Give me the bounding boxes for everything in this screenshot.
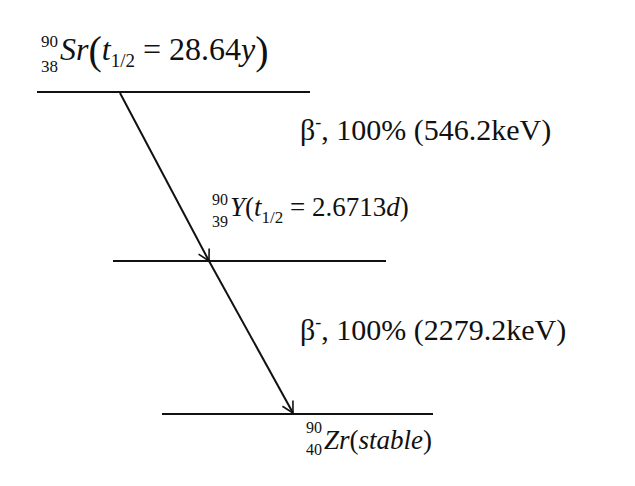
decay-arrow-1: [120, 93, 209, 261]
nuclide-label-sr90: 90 38 Sr(t1/2 = 28.64y): [40, 31, 269, 71]
isotope-notation: 90 38: [40, 39, 60, 71]
element-symbol: Zr: [324, 425, 350, 455]
decay-arrow-2: [209, 261, 293, 413]
transition-label-1: β-, 100% (546.2keV): [300, 113, 551, 145]
element-symbol: Sr: [60, 31, 88, 67]
isotope-notation: 90 39: [210, 198, 230, 226]
element-symbol: Y: [230, 192, 245, 222]
transition-label-2: β-, 100% (2279.2keV): [300, 313, 566, 345]
isotope-notation: 90 40: [304, 426, 324, 454]
nuclide-label-zr90: 90 40 Zr(stable): [304, 426, 432, 454]
nuclide-label-y90: 90 39 Y(t1/2 = 2.6713d): [210, 194, 409, 226]
